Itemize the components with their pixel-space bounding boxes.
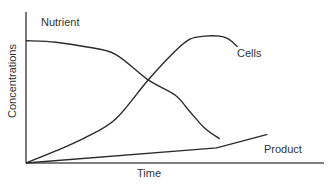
series-label-product: Product — [264, 143, 302, 155]
chart: Concentrations Time Nutrient Cells Produ… — [0, 0, 332, 185]
series-label-nutrient: Nutrient — [41, 16, 80, 28]
series-line-cells — [26, 36, 238, 163]
series-label-cells: Cells — [237, 47, 262, 59]
y-axis-label: Concentrations — [6, 44, 18, 118]
series-line-nutrient — [26, 41, 220, 139]
x-axis-label: Time — [137, 167, 161, 179]
